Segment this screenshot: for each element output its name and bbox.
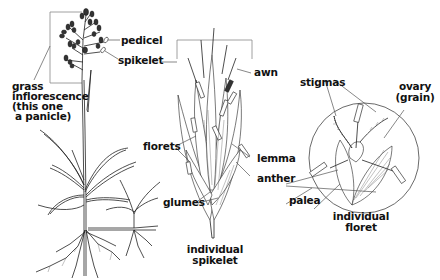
whole-plant-illustration — [34, 9, 160, 279]
label-spikelet-plant: spikelet — [118, 54, 163, 66]
spikelet-bracket — [177, 40, 252, 59]
label-inflorescence-4: a panicle) — [15, 110, 71, 122]
label-lemma: lemma — [257, 152, 296, 164]
label-awn: awn — [254, 66, 278, 78]
grass-diagram: pedicel spikelet grass inflorescence (th… — [0, 0, 440, 280]
caption-spikelet-2: spikelet — [180, 254, 250, 266]
inflorescence-bracket — [50, 12, 82, 83]
label-glumes: glumes — [163, 196, 205, 208]
label-anther: anther — [257, 172, 295, 184]
label-ovary-2: (grain) — [394, 91, 436, 103]
caption-floret-2: floret — [325, 221, 397, 233]
label-palea: palea — [289, 194, 320, 206]
label-stigmas: stigmas — [300, 76, 345, 88]
label-pedicel: pedicel — [121, 34, 162, 46]
label-florets: florets — [143, 140, 181, 152]
